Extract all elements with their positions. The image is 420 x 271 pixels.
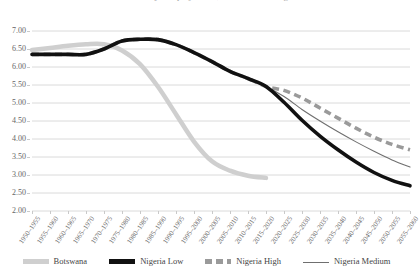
legend-item-nigeria-high[interactable]: Nigeria High <box>205 257 281 266</box>
x-tick-mark <box>338 211 339 214</box>
legend-item-botswana[interactable]: Botswana <box>23 257 88 266</box>
y-tick-mark <box>27 157 30 158</box>
y-tick-label: 7.00 <box>12 27 26 35</box>
legend-label-nigeria-medium: Nigeria Medium <box>334 257 390 266</box>
x-tick-mark <box>248 211 249 214</box>
x-tick-mark <box>104 211 105 214</box>
chart-title: Total fertility rate projections, Botswa… <box>0 0 413 2</box>
x-axis: 1950–19551955–19601960–19651965–19701970… <box>32 211 410 257</box>
x-tick-mark <box>158 211 159 214</box>
y-tick-mark <box>27 49 30 50</box>
legend-label-nigeria-low: Nigeria Low <box>140 257 183 266</box>
y-tick-label: 5.00 <box>12 99 26 107</box>
y-tick-label: 4.00 <box>12 135 26 143</box>
y-tick-mark <box>27 85 30 86</box>
y-tick-label: 6.00 <box>12 63 26 71</box>
x-tick-mark <box>410 211 411 214</box>
plot-area <box>32 31 410 211</box>
x-tick-mark <box>176 211 177 214</box>
y-tick-label: 3.50 <box>12 153 26 161</box>
legend-swatch-nigeria-medium <box>303 262 329 263</box>
x-tick-mark <box>320 211 321 214</box>
y-tick-mark <box>27 103 30 104</box>
y-tick-mark <box>27 193 30 194</box>
legend-swatch-nigeria-high <box>205 259 231 264</box>
x-tick-mark <box>284 211 285 214</box>
x-tick-mark <box>122 211 123 214</box>
x-tick-mark <box>302 211 303 214</box>
x-tick-mark <box>86 211 87 214</box>
legend-label-nigeria-high: Nigeria High <box>236 257 281 266</box>
x-tick-mark <box>356 211 357 214</box>
legend-swatch-botswana <box>23 259 49 264</box>
x-tick-mark <box>68 211 69 214</box>
series-line <box>32 39 410 186</box>
series-lines <box>32 31 410 211</box>
x-tick-mark <box>140 211 141 214</box>
series-line <box>32 39 410 167</box>
chart-legend: Botswana Nigeria Low Nigeria High Nigeri… <box>0 254 413 268</box>
y-tick-label: 4.50 <box>12 117 26 125</box>
x-tick-mark <box>50 211 51 214</box>
y-tick-mark <box>27 67 30 68</box>
x-tick-mark <box>32 211 33 214</box>
y-tick-mark <box>27 31 30 32</box>
x-tick-mark <box>212 211 213 214</box>
legend-label-botswana: Botswana <box>54 257 88 266</box>
y-tick-label: 6.50 <box>12 45 26 53</box>
y-tick-label: 3.00 <box>12 171 26 179</box>
y-tick-mark <box>27 121 30 122</box>
y-tick-label: 5.50 <box>12 81 26 89</box>
y-tick-mark <box>27 211 30 212</box>
y-tick-label: 2.50 <box>12 189 26 197</box>
y-tick-mark <box>27 175 30 176</box>
x-tick-mark <box>230 211 231 214</box>
y-tick-mark <box>27 139 30 140</box>
x-tick-mark <box>194 211 195 214</box>
x-tick-mark <box>374 211 375 214</box>
series-line <box>32 44 266 178</box>
legend-swatch-nigeria-low <box>109 259 135 264</box>
x-tick-mark <box>266 211 267 214</box>
legend-item-nigeria-medium[interactable]: Nigeria Medium <box>303 257 390 266</box>
y-axis: 7.006.506.005.505.004.504.003.503.002.50… <box>0 31 30 211</box>
legend-item-nigeria-low[interactable]: Nigeria Low <box>109 257 183 266</box>
x-tick-mark <box>392 211 393 214</box>
y-tick-label: 2.00 <box>12 207 26 215</box>
